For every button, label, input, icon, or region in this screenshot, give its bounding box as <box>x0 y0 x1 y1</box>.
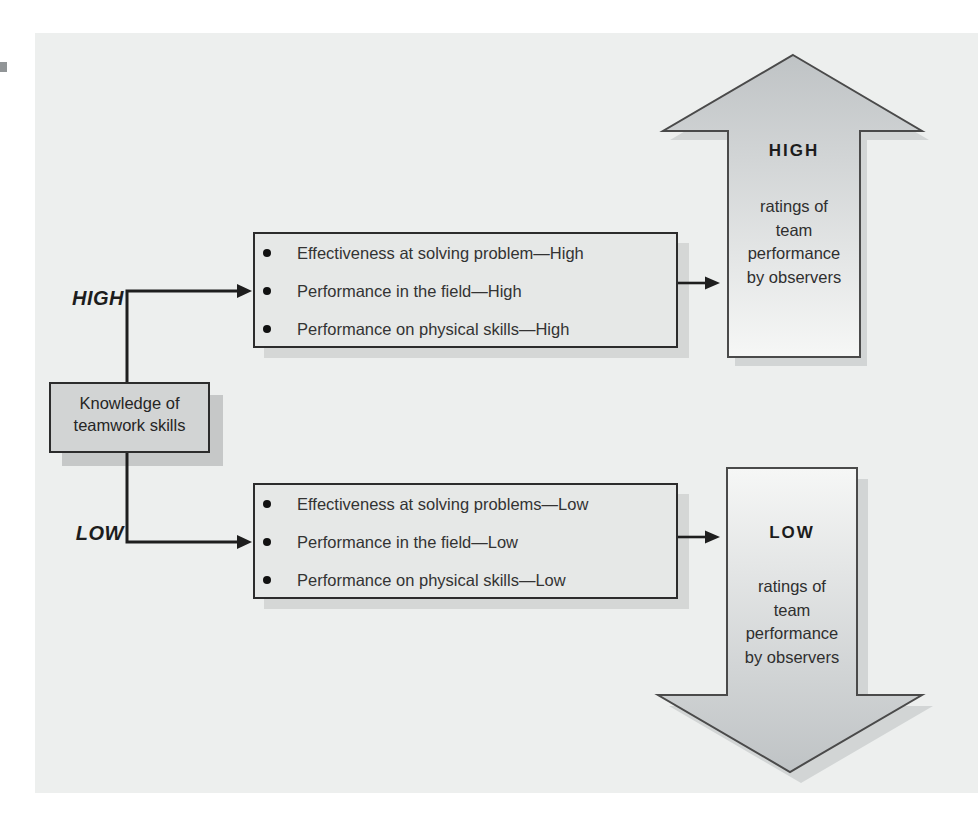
up-arrow-heading: HIGH <box>738 141 850 161</box>
list-item-label: Performance in the field—Low <box>297 533 518 552</box>
knowledge-box-label: Knowledge of teamwork skills <box>51 384 208 436</box>
bullet-icon <box>263 325 271 333</box>
up-arrow-caption: ratings of team performance by observers <box>738 195 850 289</box>
list-item: Performance in the field—Low <box>255 528 676 556</box>
low-outcome-arrowhead-icon <box>705 531 720 544</box>
caption-line: ratings of <box>736 575 848 599</box>
list-item-label: Performance on physical skills—High <box>297 320 569 339</box>
list-item: Effectiveness at solving problem—High <box>255 239 676 267</box>
bullet-icon <box>263 576 271 584</box>
caption-line: performance <box>736 622 848 646</box>
high-branch-label: HIGH <box>36 287 124 309</box>
list-item-label: Performance on physical skills—Low <box>297 571 566 590</box>
caption-line: team <box>736 599 848 623</box>
list-item-label: Effectiveness at solving problems—Low <box>297 495 588 514</box>
caption-line: ratings of <box>738 195 850 219</box>
list-item: Performance in the field—High <box>255 277 676 305</box>
high-branch-arrowhead-icon <box>237 284 252 298</box>
caption-line: by observers <box>738 266 850 290</box>
caption-line: by observers <box>736 646 848 670</box>
low-branch-label: LOW <box>36 522 124 544</box>
caption-line: team <box>738 219 850 243</box>
caption-line: performance <box>738 242 850 266</box>
list-item-label: Performance in the field—High <box>297 282 522 301</box>
bullet-icon <box>263 500 271 508</box>
knowledge-box: Knowledge of teamwork skills <box>49 382 210 453</box>
low-branch-arrowhead-icon <box>237 535 252 549</box>
list-item: Effectiveness at solving problems—Low <box>255 490 676 518</box>
high-outcomes-box: Effectiveness at solving problem—High Pe… <box>253 232 678 348</box>
list-item-label: Effectiveness at solving problem—High <box>297 244 584 263</box>
down-arrow-heading: LOW <box>736 523 848 543</box>
bullet-icon <box>263 249 271 257</box>
bullet-icon <box>263 287 271 295</box>
list-item: Performance on physical skills—Low <box>255 566 676 594</box>
bullet-icon <box>263 538 271 546</box>
down-arrow-caption: ratings of team performance by observers <box>736 575 848 669</box>
low-outcomes-box: Effectiveness at solving problems—Low Pe… <box>253 483 678 599</box>
list-item: Performance on physical skills—High <box>255 315 676 343</box>
high-outcome-arrowhead-icon <box>705 277 720 290</box>
page: Knowledge of teamwork skills HIGH LOW Ef… <box>0 0 978 815</box>
